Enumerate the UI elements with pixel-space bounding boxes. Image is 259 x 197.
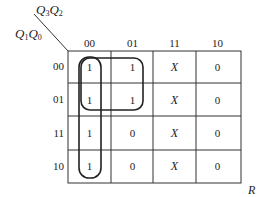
cell: 1 — [68, 51, 111, 84]
cell: 0 — [111, 117, 154, 150]
cell: 0 — [196, 84, 239, 117]
cell: X — [153, 117, 196, 150]
column-variables-label: Q3Q2 — [36, 2, 63, 18]
col-header-01: 01 — [111, 37, 154, 49]
cell: 1 — [68, 117, 111, 150]
col-header-11: 11 — [153, 37, 196, 49]
cell: X — [153, 84, 196, 117]
col-header-10: 10 — [196, 37, 239, 49]
col-header-00: 00 — [68, 37, 111, 49]
row-header-00: 00 — [40, 60, 64, 72]
cell: X — [153, 150, 196, 183]
cell: X — [153, 51, 196, 84]
cell: 1 — [68, 150, 111, 183]
cell: 0 — [196, 51, 239, 84]
output-label: R — [248, 183, 255, 197]
cell: 0 — [111, 150, 154, 183]
cell: 1 — [111, 51, 154, 84]
cell: 0 — [196, 150, 239, 183]
cell: 1 — [111, 84, 154, 117]
row-header-11: 11 — [40, 127, 64, 139]
cell: 0 — [196, 117, 239, 150]
row-header-10: 10 — [40, 160, 64, 172]
row-header-01: 01 — [40, 93, 64, 105]
cell: 1 — [68, 84, 111, 117]
row-variables-label: Q1Q0 — [15, 26, 42, 42]
